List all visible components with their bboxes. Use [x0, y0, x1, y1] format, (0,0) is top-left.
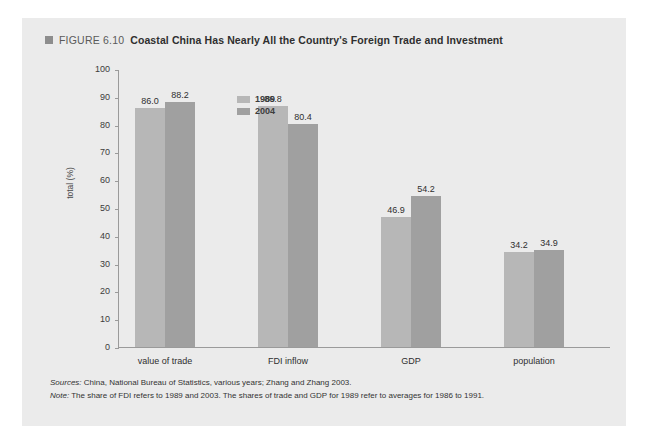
y-axis-tick-label: 100 [95, 64, 110, 74]
legend-item-1989[interactable]: 1989 [237, 94, 275, 104]
legend-item-2004[interactable]: 2004 [237, 106, 275, 116]
legend-label: 2004 [255, 106, 275, 116]
bar-value-label: 34.9 [540, 238, 558, 248]
x-axis-category-label: GDP [401, 356, 421, 366]
bars-layer: 86.088.2value of trade86.880.4FDI inflow… [119, 70, 610, 347]
y-axis-tick-label: 40 [100, 231, 110, 241]
bar-value-of-trade-1989[interactable]: 86.0 [135, 108, 165, 347]
bar-group-value-of-trade: 86.088.2value of trade [119, 70, 242, 347]
y-axis-tick-label: 90 [100, 92, 110, 102]
bar-value-label: 46.9 [387, 205, 405, 215]
y-axis-tick-label: 50 [100, 203, 110, 213]
footnote-sources-label: Sources: [50, 378, 82, 387]
y-axis-tick-mark [115, 348, 119, 349]
bar-GDP-2004[interactable]: 54.2 [411, 196, 441, 347]
figure-panel: FIGURE 6.10 Coastal China Has Nearly All… [22, 18, 626, 426]
bar-GDP-1989[interactable]: 46.9 [381, 217, 411, 347]
legend-swatch-icon [237, 108, 250, 115]
footnotes: Sources: China, National Bureau of Stati… [50, 376, 620, 402]
legend-label: 1989 [255, 94, 275, 104]
bar-population-2004[interactable]: 34.9 [534, 250, 564, 347]
y-axis-tick-label: 60 [100, 175, 110, 185]
bar-value-label: 86.0 [141, 96, 159, 106]
bar-value-label: 54.2 [417, 184, 435, 194]
y-axis-title: total (%) [65, 143, 75, 223]
legend: 19892004 [237, 94, 275, 118]
y-axis-tick-label: 0 [105, 342, 110, 352]
footnote-note: Note: The share of FDI refers to 1989 an… [50, 389, 620, 402]
y-axis-tick-label: 30 [100, 259, 110, 269]
bar-value-label: 80.4 [294, 112, 312, 122]
chart: total (%) 0102030405060708090100 1989200… [74, 70, 614, 370]
y-axis-tick-label: 10 [100, 314, 110, 324]
figure-bullet-icon [45, 36, 53, 44]
bar-value-label: 34.2 [510, 240, 528, 250]
figure-number-label: FIGURE 6.10 [59, 34, 124, 46]
x-axis-category-label: value of trade [138, 356, 193, 366]
bar-population-1989[interactable]: 34.2 [504, 252, 534, 347]
footnote-sources-text: China, National Bureau of Statistics, va… [82, 378, 352, 387]
legend-swatch-icon [237, 96, 250, 103]
figure-heading-text: Coastal China Has Nearly All the Country… [130, 34, 503, 46]
bar-FDI-inflow-2004[interactable]: 80.4 [288, 124, 318, 348]
y-axis-tick-label: 20 [100, 286, 110, 296]
bar-value-label: 88.2 [171, 90, 189, 100]
footnote-sources: Sources: China, National Bureau of Stati… [50, 376, 620, 389]
x-axis-category-label: FDI inflow [268, 356, 308, 366]
x-axis-category-label: population [513, 356, 555, 366]
figure-title: FIGURE 6.10 Coastal China Has Nearly All… [45, 34, 503, 46]
bar-FDI-inflow-1989[interactable]: 86.8 [258, 106, 288, 347]
y-axis-tick-label: 80 [100, 120, 110, 130]
bar-group-GDP: 46.954.2GDP [365, 70, 488, 347]
footnote-note-label: Note: [50, 391, 69, 400]
plot-area: 0102030405060708090100 19892004 86.088.2… [118, 70, 610, 348]
y-axis-tick-label: 70 [100, 147, 110, 157]
bar-group-population: 34.234.9population [488, 70, 611, 347]
bar-value-of-trade-2004[interactable]: 88.2 [165, 102, 195, 347]
footnote-note-text: The share of FDI refers to 1989 and 2003… [69, 391, 484, 400]
